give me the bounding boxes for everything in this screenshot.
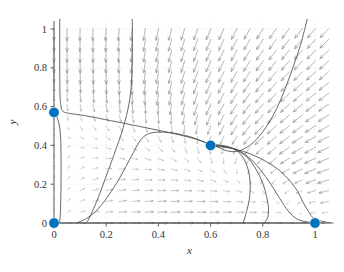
vector-arrow <box>322 212 329 214</box>
y-axis-tick-label: 0.8 <box>34 62 47 73</box>
plot-background <box>54 21 325 223</box>
x-axis-tick-label: 0.2 <box>100 229 113 240</box>
y-axis-tick-label: 0 <box>42 218 47 229</box>
x-axis-tick-label: 0.8 <box>256 229 269 240</box>
equilibrium-x-axis[interactable] <box>310 218 320 228</box>
equilibrium-y-axis[interactable] <box>49 107 59 117</box>
x-axis-tick-label: 1 <box>312 229 317 240</box>
y-axis-tick-label: 0.2 <box>34 179 47 190</box>
y-axis-tick-label: 1 <box>42 24 47 35</box>
y-axis-tick-label: 0.6 <box>34 101 47 112</box>
x-axis-tick-label: 0 <box>51 229 56 240</box>
x-axis-tick-label: 0.4 <box>152 229 166 240</box>
y-axis-tick-label: 0.4 <box>34 140 48 151</box>
x-axis-title: x <box>186 244 192 256</box>
equilibrium-saddle[interactable] <box>205 140 215 150</box>
y-axis-title: y <box>6 119 18 125</box>
phase-portrait-figure: 00.20.40.60.8100.20.40.60.81xy <box>0 0 344 272</box>
x-axis-tick-label: 0.6 <box>204 229 217 240</box>
phase-portrait-plot: 00.20.40.60.8100.20.40.60.81xy <box>0 0 344 272</box>
equilibrium-origin[interactable] <box>49 218 59 228</box>
